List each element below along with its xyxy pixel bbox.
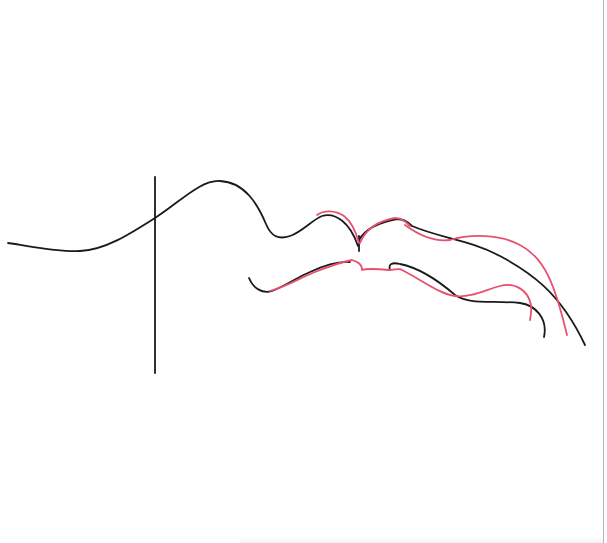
red-lower-stroke [270, 260, 531, 320]
sketch-svg [0, 0, 607, 543]
bottom-edge-shadow [240, 537, 603, 543]
black-lower-left-stroke [249, 262, 350, 292]
drawing-canvas: Line sketch of a face profile / lips out… [0, 0, 607, 543]
black-profile-stroke [8, 181, 358, 251]
black-lower-right-stroke [389, 263, 544, 337]
right-border-line [603, 0, 604, 543]
